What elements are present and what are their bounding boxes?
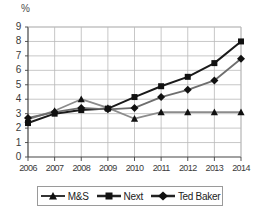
x-axis-tick-label: 2007 (46, 163, 64, 173)
legend-label-next: Next (124, 191, 143, 202)
y-axis-tick-label: 7 (5, 50, 21, 61)
legend-item-ms: M&S (40, 190, 89, 202)
x-axis-tick-label: 2013 (206, 163, 224, 173)
y-axis-tick-label: 3 (5, 108, 21, 119)
x-axis-tick-label: 2009 (99, 163, 117, 173)
chart-legend: M&S Next Ted Baker (37, 186, 223, 206)
data-point-marker (238, 38, 244, 44)
x-axis-tick-label: 2010 (126, 163, 144, 173)
legend-item-ted-baker: Ted Baker (150, 190, 220, 202)
data-point-marker (131, 104, 139, 112)
y-axis-tick-label: 9 (5, 21, 21, 32)
legend-label-ted-baker: Ted Baker (178, 191, 220, 202)
x-axis-tick-label: 2006 (19, 163, 37, 173)
y-axis-tick-label: 4 (5, 93, 21, 104)
x-axis-tick-label: 2012 (179, 163, 197, 173)
y-axis-tick-label: 5 (5, 79, 21, 90)
y-axis-tick-label: 2 (5, 122, 21, 133)
data-point-marker (157, 93, 165, 101)
line-chart: % M&S Next Ted Baker 0123456789200620072… (0, 0, 258, 209)
data-point-marker (132, 94, 138, 100)
plot-area (0, 0, 258, 209)
y-axis-tick-label: 1 (5, 137, 21, 148)
y-axis-tick-label: 0 (5, 151, 21, 162)
x-axis-tick-label: 2008 (72, 163, 90, 173)
y-axis-tick-label: 8 (5, 35, 21, 46)
data-point-marker (211, 60, 217, 66)
y-axis-tick-label: 6 (5, 64, 21, 75)
data-point-marker (185, 74, 191, 80)
data-point-marker (184, 86, 192, 94)
legend-item-next: Next (96, 190, 143, 202)
legend-marker-square-icon (96, 190, 122, 202)
legend-marker-triangle-icon (40, 190, 66, 202)
data-point-marker (158, 83, 164, 89)
x-axis-tick-label: 2014 (232, 163, 250, 173)
legend-marker-diamond-icon (150, 190, 176, 202)
x-axis-tick-label: 2011 (153, 163, 170, 173)
legend-label-ms: M&S (68, 191, 89, 202)
